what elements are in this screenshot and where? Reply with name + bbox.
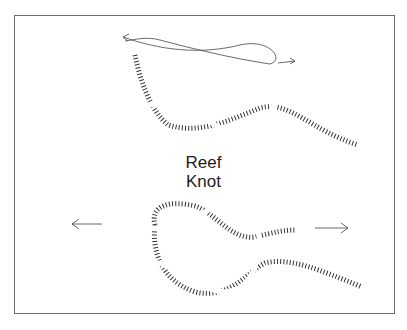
arrow-left-icon	[123, 34, 129, 41]
loop-arrow-icon	[123, 37, 276, 64]
diagram-title-line2: Knot	[0, 172, 407, 192]
diagram-title-line1: Reef	[0, 153, 407, 173]
bottom-knot-complete	[58, 204, 362, 297]
pull-left-arrow-icon	[72, 219, 102, 229]
pull-right-arrow-icon	[315, 223, 348, 233]
top-knot-step	[48, 34, 358, 147]
arrow-right-icon	[278, 58, 295, 64]
